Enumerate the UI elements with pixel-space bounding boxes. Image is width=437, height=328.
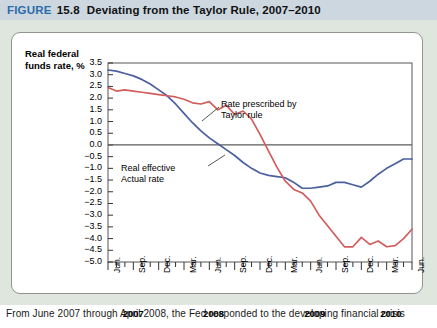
x-axis-tick-label: Mar. xyxy=(289,256,299,273)
x-axis-tick-label: Dec. xyxy=(365,256,375,273)
figure-number-label: 15.8 xyxy=(57,4,80,16)
annotation-actual-rate: Real effective Actual rate xyxy=(121,163,175,185)
y-axis-tick-label: −2.0 xyxy=(72,186,102,196)
x-axis-tick-label: Jun. xyxy=(416,257,426,273)
chart-plot-area: Real federal funds rate, % Rate prescrib… xyxy=(12,33,424,295)
x-axis-tick-label: Dec. xyxy=(162,256,172,273)
y-axis-tick-label: −3.5 xyxy=(72,221,102,231)
figure-panel-card: Real federal funds rate, % Rate prescrib… xyxy=(11,32,423,294)
y-axis-tick-label: −1.5 xyxy=(72,174,102,184)
figure-caption: From June 2007 through April 2008, the F… xyxy=(0,307,437,321)
y-axis-tick-label: −4.5 xyxy=(72,244,102,254)
x-axis-tick-label: Jun. xyxy=(314,257,324,273)
y-axis-tick-label: 2.0 xyxy=(72,92,102,102)
y-axis-tick-label: 3.0 xyxy=(72,69,102,79)
y-axis-tick-label: −4.0 xyxy=(72,233,102,243)
x-axis-tick-label: Jun. xyxy=(213,257,223,273)
x-axis-tick-label: Sep. xyxy=(238,256,248,274)
y-axis-tick-label: −1.0 xyxy=(72,162,102,172)
x-axis-tick-label: Sep. xyxy=(137,256,147,274)
y-axis-tick-label: 0.5 xyxy=(72,127,102,137)
figure-title: Deviating from the Taylor Rule, 2007–201… xyxy=(87,4,321,16)
y-axis-tick-label: −3.0 xyxy=(72,209,102,219)
y-axis-tick-label: 0.0 xyxy=(72,139,102,149)
y-axis-tick-label: 1.5 xyxy=(72,104,102,114)
y-axis-tick-label: 3.5 xyxy=(72,57,102,67)
annotation-leader-line-actual xyxy=(208,155,225,166)
y-axis-tick-label: −0.5 xyxy=(72,151,102,161)
y-axis-tick-label: −2.5 xyxy=(72,197,102,207)
x-axis-tick-label: Dec. xyxy=(264,256,274,273)
y-axis-tick-label: −5.0 xyxy=(72,256,102,266)
figure-panel-background: Real federal funds rate, % Rate prescrib… xyxy=(0,20,437,305)
figure-word-label: FIGURE xyxy=(7,4,52,16)
x-axis-tick-label: Mar. xyxy=(390,256,400,273)
y-axis-tick-label: 1.0 xyxy=(72,116,102,126)
annotation-leader-line-taylor xyxy=(202,107,219,121)
annotation-taylor-rule: Rate prescribed by Taylor rule xyxy=(221,99,297,121)
y-axis-tick-label: 2.5 xyxy=(72,80,102,90)
figure-header: FIGURE 15.8 Deviating from the Taylor Ru… xyxy=(0,0,437,20)
x-axis-tick-label: Jun. xyxy=(112,257,122,273)
figure-root: FIGURE 15.8 Deviating from the Taylor Ru… xyxy=(0,0,437,328)
x-axis-tick-label: Mar. xyxy=(188,256,198,273)
x-axis-tick-label: Sep. xyxy=(340,256,350,274)
